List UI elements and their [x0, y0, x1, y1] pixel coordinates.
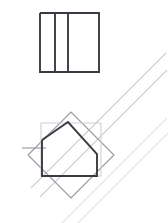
figure-canvas — [0, 0, 168, 223]
diagonal-line-upper — [31, 53, 166, 188]
line-drawing-svg — [0, 0, 168, 223]
square-with-two-vertical-dividers — [40, 13, 99, 72]
diagonal-line-upper-second — [40, 70, 167, 197]
